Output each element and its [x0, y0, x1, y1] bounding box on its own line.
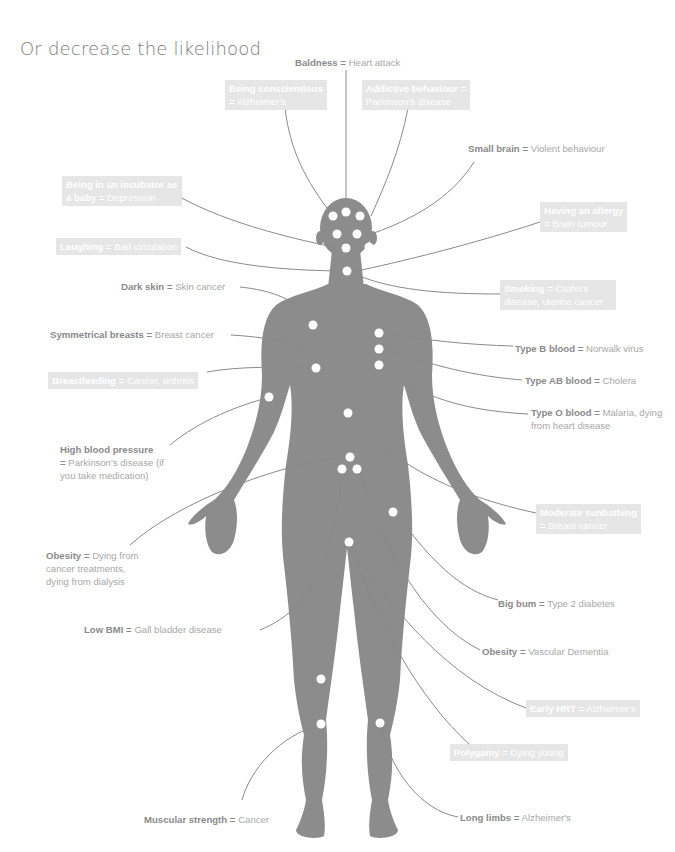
label-dark-skin: Dark skin = Skin cancer	[121, 280, 225, 293]
label-cause: Long limbs	[460, 812, 511, 823]
label-cause: Small brain	[468, 143, 520, 154]
equals-sign: =	[60, 457, 66, 468]
human-silhouette	[188, 198, 506, 838]
label-polygamy: Polygamy = Dying young	[450, 744, 568, 761]
label-effect: Depression	[107, 192, 156, 203]
label-cause: Low BMI	[84, 624, 123, 635]
label-breastfeeding: Breastfeeding = Cancer, arthritis	[48, 372, 198, 389]
label-effect: Cholera	[603, 375, 637, 386]
label-effect: Alzheimer's	[522, 812, 571, 823]
label-cause: Breastfeeding	[52, 375, 116, 386]
label-allergy: Having an allergy= Brain tumour	[540, 202, 627, 232]
label-effect: Cancer, arthritis	[127, 375, 194, 386]
label-effect: Parkinson's disease	[366, 96, 451, 107]
label-effect: Violent behaviour	[531, 143, 605, 154]
equals-sign: =	[126, 624, 132, 635]
label-early-hrt: Early HRT = Alzheimer's	[526, 700, 640, 717]
equals-sign: =	[229, 96, 235, 107]
equals-sign: =	[106, 241, 112, 252]
label-cause: High blood pressure	[60, 444, 153, 455]
equals-sign: =	[544, 218, 550, 229]
label-sunbathing: Moderate sunbathing= Breast cancer	[536, 504, 641, 534]
label-effect: Breast cancer	[155, 329, 214, 340]
label-cause: Type B blood	[515, 343, 575, 354]
equals-sign: =	[514, 812, 520, 823]
label-type-ab: Type AB blood = Cholera	[525, 374, 636, 387]
equals-sign: =	[84, 550, 90, 561]
label-cause: Type O blood	[531, 407, 592, 418]
label-conscientious: Being conscientious= Alzheimer's	[225, 80, 327, 110]
label-smoking: Smoking = Crohn's disease, uterine cance…	[500, 280, 616, 310]
label-effect: Dying young	[510, 747, 563, 758]
equals-sign: =	[119, 375, 125, 386]
label-effect: Heart attack	[349, 57, 401, 68]
label-cause: Type AB blood	[525, 375, 592, 386]
label-effect: Alzheimer's	[237, 96, 286, 107]
equals-sign: =	[147, 329, 153, 340]
label-incubator: Being in an incubator as a baby = Depres…	[62, 176, 182, 206]
label-type-o: Type O blood = Malaria, dying from heart…	[531, 406, 671, 432]
label-big-bum: Big bum = Type 2 diabetes	[498, 597, 615, 610]
label-effect: Vascular Dementia	[528, 646, 608, 657]
label-cause: Muscular strength	[144, 814, 227, 825]
label-baldness: Baldness = Heart attack	[295, 56, 400, 69]
equals-sign: =	[540, 520, 546, 531]
label-symmetrical: Symmetrical breasts = Breast cancer	[50, 328, 214, 341]
label-obesity-dementia: Obesity = Vascular Dementia	[482, 645, 609, 658]
label-cause: Big bum	[498, 598, 536, 609]
equals-sign: =	[460, 83, 466, 94]
label-muscular: Muscular strength = Cancer	[144, 813, 269, 826]
label-cause: Addictive behaviour	[366, 83, 458, 94]
label-type-b: Type B blood = Norwalk virus	[515, 342, 644, 355]
label-cause: Dark skin	[121, 281, 164, 292]
label-effect: Bad circulation	[114, 241, 177, 252]
equals-sign: =	[230, 814, 236, 825]
equals-sign: =	[502, 747, 508, 758]
label-cause: Being conscientious	[229, 83, 323, 94]
label-cause: Symmetrical breasts	[50, 329, 144, 340]
label-obesity-dying: Obesity = Dying from cancer treatments, …	[46, 549, 146, 588]
equals-sign: =	[547, 283, 553, 294]
label-high-bp: High blood pressure= Parkinson's disease…	[60, 443, 175, 482]
equals-sign: =	[594, 375, 600, 386]
equals-sign: =	[539, 598, 545, 609]
label-effect: Alzheimer's	[586, 703, 635, 714]
equals-sign: =	[520, 646, 526, 657]
label-effect: Type 2 diabetes	[547, 598, 615, 609]
label-cause: Polygamy	[454, 747, 499, 758]
equals-sign: =	[579, 703, 585, 714]
label-long-limbs: Long limbs = Alzheimer's	[460, 811, 571, 824]
label-effect: Skin cancer	[175, 281, 225, 292]
equals-sign: =	[522, 143, 528, 154]
label-cause: Obesity	[46, 550, 81, 561]
equals-sign: =	[99, 192, 105, 203]
label-effect: Norwalk virus	[586, 343, 644, 354]
label-effect: Breast cancer	[548, 520, 607, 531]
label-cause: Early HRT	[530, 703, 576, 714]
label-cause: Smoking	[504, 283, 545, 294]
label-small-brain: Small brain = Violent behaviour	[468, 142, 605, 155]
label-cause: Baldness	[295, 57, 338, 68]
label-cause: Obesity	[482, 646, 517, 657]
equals-sign: =	[340, 57, 346, 68]
equals-sign: =	[167, 281, 173, 292]
label-cause: Laughing	[60, 241, 103, 252]
label-addictive: Addictive behaviour =Parkinson's disease	[362, 80, 470, 110]
label-effect: Cancer	[238, 814, 269, 825]
label-cause: Having an allergy	[544, 205, 623, 216]
label-low-bmi: Low BMI = Gall bladder disease	[84, 623, 222, 636]
label-cause: Moderate sunbathing	[540, 507, 637, 518]
equals-sign: =	[578, 343, 584, 354]
label-effect: Parkinson's disease (if you take medicat…	[60, 457, 164, 481]
label-effect: Gall bladder disease	[134, 624, 221, 635]
label-effect: Brain tumour	[552, 218, 607, 229]
equals-sign: =	[594, 407, 600, 418]
label-laughing: Laughing = Bad circulation	[56, 238, 181, 255]
